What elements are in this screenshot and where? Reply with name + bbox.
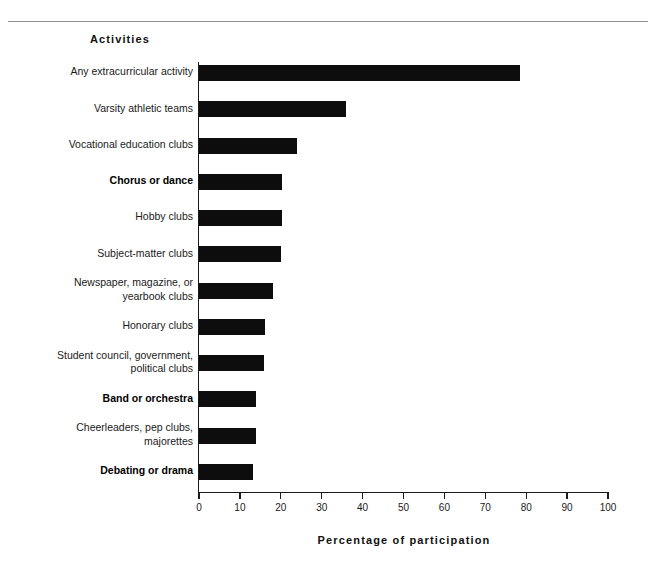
x-tick-label: 80 <box>521 502 532 513</box>
x-tick <box>485 493 486 499</box>
category-label: Cheerleaders, pep clubs,majorettes <box>5 421 193 448</box>
x-tick <box>280 493 281 499</box>
bar <box>199 319 265 335</box>
x-tick <box>444 493 445 499</box>
category-label-line: Any extracurricular activity <box>5 65 193 79</box>
bar <box>199 355 264 371</box>
category-label-line: yearbook clubs <box>5 290 193 304</box>
category-label: Chorus or dance <box>5 174 193 188</box>
category-label-line: Hobby clubs <box>5 210 193 224</box>
category-label-line: Student council, government, <box>5 349 193 363</box>
category-label: Any extracurricular activity <box>5 65 193 79</box>
x-tick <box>198 493 199 499</box>
category-label: Subject-matter clubs <box>5 247 193 261</box>
bar <box>199 464 253 480</box>
bar <box>199 65 520 81</box>
x-tick-label: 0 <box>196 502 202 513</box>
bar <box>199 174 282 190</box>
x-tick <box>239 493 240 499</box>
bar <box>199 210 282 226</box>
x-tick <box>321 493 322 499</box>
x-tick-label: 100 <box>600 502 617 513</box>
x-tick <box>403 493 404 499</box>
category-label: Honorary clubs <box>5 319 193 333</box>
category-label-line: Vocational education clubs <box>5 138 193 152</box>
x-tick-label: 50 <box>398 502 409 513</box>
x-tick-label: 30 <box>316 502 327 513</box>
bar <box>199 391 256 407</box>
x-tick-label: 70 <box>480 502 491 513</box>
category-label-line: Subject-matter clubs <box>5 247 193 261</box>
x-tick <box>607 493 608 499</box>
category-label: Vocational education clubs <box>5 138 193 152</box>
x-tick-label: 10 <box>234 502 245 513</box>
category-label-line: Varsity athletic teams <box>5 102 193 116</box>
x-tick-label: 40 <box>357 502 368 513</box>
x-tick-label: 20 <box>275 502 286 513</box>
category-label-line: Newspaper, magazine, or <box>5 276 193 290</box>
x-tick-label: 90 <box>562 502 573 513</box>
category-label: Debating or drama <box>5 464 193 478</box>
category-label-line: majorettes <box>5 435 193 449</box>
bar <box>199 101 346 117</box>
category-label: Varsity athletic teams <box>5 102 193 116</box>
category-label-line: Chorus or dance <box>5 174 193 188</box>
category-label-line: political clubs <box>5 362 193 376</box>
bar-chart-plot-area: 0102030405060708090100 Any extracurricul… <box>0 0 655 575</box>
category-label-line: Band or orchestra <box>5 392 193 406</box>
category-label-line: Honorary clubs <box>5 319 193 333</box>
bar <box>199 428 256 444</box>
category-label: Hobby clubs <box>5 210 193 224</box>
chart-page: Activities 0102030405060708090100 Any ex… <box>0 0 655 575</box>
category-label-line: Debating or drama <box>5 464 193 478</box>
x-axis-title: Percentage of participation <box>199 534 609 546</box>
x-tick <box>566 493 567 499</box>
x-tick-label: 60 <box>439 502 450 513</box>
x-tick <box>362 493 363 499</box>
bar <box>199 138 297 154</box>
x-tick <box>526 493 527 499</box>
category-label-line: Cheerleaders, pep clubs, <box>5 421 193 435</box>
category-label: Band or orchestra <box>5 392 193 406</box>
category-label: Student council, government,political cl… <box>5 349 193 376</box>
bar <box>199 283 273 299</box>
bar <box>199 246 281 262</box>
category-label: Newspaper, magazine, oryearbook clubs <box>5 276 193 303</box>
